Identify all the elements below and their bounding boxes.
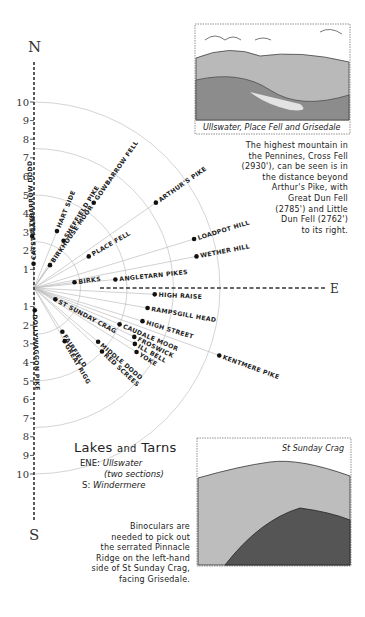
tick-label: 7 [23,413,29,424]
peak-dot [194,254,199,259]
peak-dot [134,350,139,355]
peak-dot [31,262,36,267]
tick-label: 1 [23,264,29,275]
note-line: the Pennines, Cross Fell [205,152,348,163]
note-line: Arthur's Pike, with [205,183,348,194]
tick-label: 2 [23,245,29,256]
peak-label-group: KENTMERE PIKE [222,353,281,380]
note-line: to its right. [205,226,348,237]
peak-dot [152,292,157,297]
note-line: Ridge on the left-hand [70,554,190,565]
peak-label-group: DOLLYWAGGON PIKE [32,314,42,391]
peak-dot [113,277,118,282]
peak-dot [32,308,37,313]
distance-ticks: 1122334455667788991010 [16,97,34,480]
lake-name: Windermere [93,480,146,490]
note-line: Binoculars are [70,522,190,533]
tick-label: 2 [23,320,29,331]
peak-label: KENTMERE PIKE [222,353,281,380]
lakes-title-word: and [117,443,137,454]
tick-label: 8 [23,134,29,145]
note-line: facing Grisedale. [70,575,190,586]
tick-label: 1 [23,301,29,312]
peak-dot [91,200,96,205]
sketch-st-sunday-crag: St Sunday Crag [197,438,351,566]
peak-label: CATSTYCAM [29,216,37,260]
lakes-title-word: Tarns [141,440,176,455]
lakes-title-word: Lakes [74,440,113,455]
peak-label-group: ANGLETARN PIKES [119,268,188,282]
south-label: S [29,526,39,544]
tick-label: 4 [23,357,29,368]
sketch-top-caption: Ullswater, Place Fell and Grisedale [203,123,341,132]
binoculars-note: Binoculars are needed to pick out the se… [70,522,190,586]
peak-label-group: RAMPSGILL HEAD [151,305,217,323]
peak-dot [55,229,60,234]
note-line: the serrated Pinnacle [70,543,190,554]
note-line: Dun Fell (2762') [205,215,348,226]
lake-entry: S: Windermere [82,480,177,491]
peak-label-group: ST SUNDAY CRAG [57,298,118,335]
lakes-and-tarns: Lakes and Tarns ENE: Ullswater (two sect… [74,440,177,491]
note-line: side of St Sunday Crag, [70,564,190,575]
peak-dot [96,340,101,345]
tick-label: 3 [23,338,29,349]
peak-dot [72,280,77,285]
lake-direction: S: [82,480,90,490]
peak-dot [117,322,122,327]
tick-label: 10 [16,97,29,108]
peak-label-group: WETHER HILL [200,242,251,258]
note-line: The highest mountain in [205,141,348,152]
note-line: (2930'), can be seen is in [205,162,348,173]
east-label: E [330,282,339,296]
peak-dot [140,319,145,324]
peak-label: HIGH RAISE [159,291,203,300]
peak-label-group: HIGH RAISE [159,291,203,300]
note-line: the distance beyond [205,173,348,184]
note-line: (2785') and Little [205,205,348,216]
peak-label-group: BIRKS [78,275,101,285]
sketch-bottom-caption: St Sunday Crag [282,444,344,453]
lake-sub: (two sections) [104,469,177,480]
north-label: N [28,38,41,56]
peak-label-group: ARTHUR'S PIKE [157,165,207,203]
peak-dot [48,263,53,268]
peak-dot [133,342,138,347]
peak-dot [100,349,105,354]
sketch-ullswater: Ullswater, Place Fell and Grisedale [195,24,350,134]
tick-label: 8 [23,431,29,442]
tick-label: 10 [16,469,29,480]
tick-label: 9 [23,450,29,461]
peak-label-group: CATSTYCAM [29,216,37,260]
tick-label: 6 [23,394,29,405]
peak-label: PLACE FELL [90,229,131,257]
peak-dot [62,339,67,344]
tick-label: 9 [23,115,29,126]
lake-direction: ENE: [80,458,100,468]
peak-label: ST SUNDAY CRAG [57,298,118,335]
peak-dot [217,353,222,358]
peak-dot [86,254,91,259]
peak-dot [145,306,150,311]
peak-label: GOWBARROW FELL [93,139,139,201]
peak-label: ANGLETARN PIKES [119,268,188,282]
peak-label: BIRKS [78,275,101,285]
peak-label: RAMPSGILL HEAD [151,305,217,323]
peak-dot [192,237,197,242]
note-line: Great Dun Fell [205,194,348,205]
note-line: needed to pick out [70,533,190,544]
peak-label: WETHER HILL [200,242,251,258]
peak-label: DOLLYWAGGON PIKE [32,314,42,391]
peak-dot [154,200,159,205]
peak-label: ARTHUR'S PIKE [157,165,207,203]
peak-dot [60,329,65,334]
lakes-title: Lakes and Tarns [74,440,177,455]
cross-fell-note: The highest mountain in the Pennines, Cr… [205,141,348,236]
tick-label: 5 [23,376,29,387]
lake-name: Ullswater [103,458,143,468]
peak-dot [132,335,137,340]
peak-label-group: GOWBARROW FELL [93,139,139,201]
lake-entry: ENE: Ullswater [80,458,177,469]
peak-label-group: PLACE FELL [90,229,131,257]
peak-dot [53,297,58,302]
